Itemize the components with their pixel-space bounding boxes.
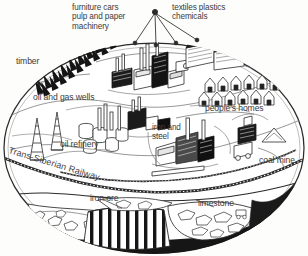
label-timber: timber xyxy=(16,56,39,66)
connector-endpoint xyxy=(195,38,199,42)
label-products-left: furniture cars pulp and paper machinery xyxy=(72,3,125,31)
label-oil-and-gas-wells: oil and gas wells xyxy=(33,92,94,102)
connector-endpoint xyxy=(133,41,137,45)
label-oil-refinery: oil refinery xyxy=(60,139,98,149)
label-iron-and-steel: iron and steel xyxy=(152,123,181,142)
label-coal-mine: coal mine xyxy=(259,155,295,165)
label-peoples-homes: people's homes xyxy=(205,103,264,113)
textile-plant xyxy=(186,28,248,70)
label-iron-ore: iron ore xyxy=(90,193,118,203)
label-products-right: textiles plastics chemicals xyxy=(172,3,225,22)
connector-endpoint xyxy=(174,41,178,45)
label-limestone: limestone xyxy=(198,198,234,208)
coal-seams xyxy=(84,207,170,249)
illustration-canvas: furniture cars pulp and paper machinery … xyxy=(0,0,308,256)
connector-endpoint xyxy=(154,43,158,47)
